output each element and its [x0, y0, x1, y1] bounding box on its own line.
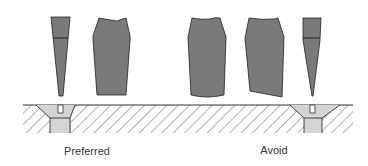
tool-comparison-diagram	[0, 0, 368, 166]
tool-narrow-tapered-preferred	[51, 17, 70, 96]
tool-wide-slanted-avoid	[245, 18, 284, 97]
tool-wide-rounded-avoid	[188, 18, 226, 97]
tool-wide-flat-preferred	[93, 18, 130, 95]
preferred-label: Preferred	[64, 145, 110, 157]
avoid-label: Avoid	[260, 144, 287, 156]
tool-narrow-sharp-avoid	[303, 18, 321, 96]
